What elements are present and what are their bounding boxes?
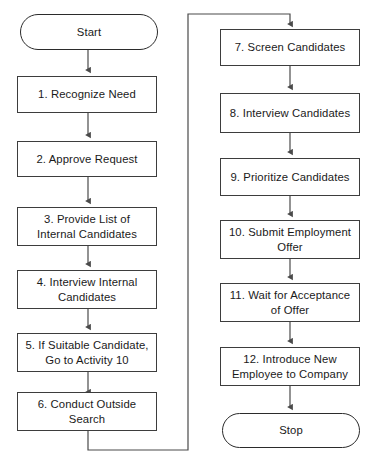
step-2-label: 2. Approve Request [36,152,137,167]
step-9-box[interactable]: 9. Prioritize Candidates [220,158,360,196]
step-5-box[interactable]: 5. If Suitable Candidate, Go to Activity… [17,333,157,372]
step-3-box[interactable]: 3. Provide List of Internal Candidates [17,207,157,246]
flowchart-canvas: Start 1. Recognize Need 2. Approve Reque… [0,0,369,465]
step-10-box[interactable]: 10. Submit Employment Offer [220,220,360,259]
step-6-box[interactable]: 6. Conduct Outside Search [17,392,157,431]
step-7-box[interactable]: 7. Screen Candidates [220,29,360,66]
step-6-label: 6. Conduct Outside Search [38,397,137,426]
step-2-box[interactable]: 2. Approve Request [17,141,157,177]
step-12-label: 12. Introduce New Employee to Company [232,352,348,381]
step-12-box[interactable]: 12. Introduce New Employee to Company [220,347,360,386]
step-1-box[interactable]: 1. Recognize Need [17,76,157,113]
step-10-label: 10. Submit Employment Offer [229,225,351,254]
step-11-label: 11. Wait for Acceptance of Offer [230,288,350,317]
step-4-box[interactable]: 4. Interview Internal Candidates [17,270,157,309]
step-3-label: 3. Provide List of Internal Candidates [37,212,137,241]
step-11-box[interactable]: 11. Wait for Acceptance of Offer [220,283,360,322]
step-9-label: 9. Prioritize Candidates [230,170,349,185]
step-5-label: 5. If Suitable Candidate, Go to Activity… [25,338,148,367]
step-4-label: 4. Interview Internal Candidates [37,275,138,304]
stop-terminator[interactable]: Stop [222,413,360,448]
step-8-box[interactable]: 8. Interview Candidates [220,93,360,133]
step-1-label: 1. Recognize Need [38,87,136,102]
stop-label: Stop [279,423,303,438]
step-8-label: 8. Interview Candidates [230,106,350,121]
step-7-label: 7. Screen Candidates [235,40,346,55]
start-label: Start [77,25,101,40]
start-terminator[interactable]: Start [20,14,158,50]
